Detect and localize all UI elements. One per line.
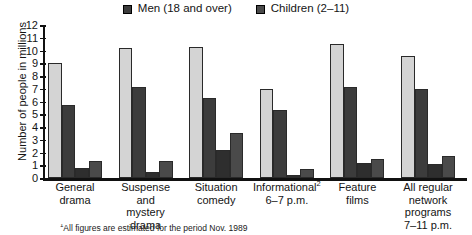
- y-tick-label: 12: [26, 20, 38, 31]
- x-axis-label-line: Situation: [181, 181, 251, 194]
- y-tick: [40, 38, 46, 40]
- bar: [442, 156, 456, 178]
- bar: [330, 44, 344, 178]
- x-axis-label-line: drama: [40, 194, 110, 207]
- y-tick: [40, 89, 46, 91]
- bar: [415, 89, 429, 178]
- bar: [189, 47, 203, 178]
- x-axis-label: Featurefilms: [322, 181, 392, 206]
- x-axis-label-line: films: [322, 194, 392, 207]
- legend-label-children: Children (2–11): [271, 3, 349, 15]
- bar: [89, 161, 103, 178]
- y-tick: [40, 153, 46, 155]
- y-tick: [40, 102, 46, 104]
- bar: [401, 56, 415, 178]
- bar: [428, 164, 442, 178]
- bar: [344, 87, 358, 178]
- bar: [159, 161, 173, 178]
- chart-footnote: 1All figures are estimated for the perio…: [60, 224, 460, 233]
- y-tick: [40, 140, 46, 142]
- bar: [146, 172, 160, 178]
- y-tick-label: 5: [32, 109, 38, 120]
- x-axis-label-line: comedy: [181, 194, 251, 207]
- x-axis-label-line: Suspense and: [111, 181, 181, 206]
- x-axis-label-line: General: [40, 181, 110, 194]
- bar: [216, 150, 230, 178]
- y-tick-label: 1: [32, 160, 38, 171]
- bar: [75, 168, 89, 178]
- bar: [357, 163, 371, 178]
- bar: [203, 98, 217, 178]
- bar: [119, 48, 133, 178]
- y-tick: [40, 25, 46, 27]
- bar: [371, 159, 385, 178]
- x-axis-label: Situationcomedy: [181, 181, 251, 206]
- y-tick-label: 2: [32, 147, 38, 158]
- y-tick-label: 9: [32, 58, 38, 69]
- chart-legend: Men (18 and over) Children (2–11): [0, 0, 472, 18]
- legend-label-men: Men (18 and over): [138, 3, 232, 15]
- plot-area: 1211109876543210: [43, 25, 467, 178]
- y-tick: [40, 178, 46, 180]
- legend-item-children: Children (2–11): [256, 3, 349, 15]
- bar: [62, 105, 76, 178]
- y-tick: [40, 63, 46, 65]
- x-axis-label-line: network: [393, 194, 463, 207]
- x-axis-label-superscript: 2: [317, 179, 321, 188]
- y-tick: [40, 165, 46, 167]
- y-tick: [40, 76, 46, 78]
- bar: [48, 63, 62, 178]
- bar: [273, 110, 287, 178]
- y-tick-label: 10: [26, 45, 38, 56]
- y-tick-label: 4: [32, 122, 38, 133]
- bar: [230, 133, 244, 178]
- y-tick-label: 0: [32, 173, 38, 184]
- bar: [132, 87, 146, 178]
- y-tick-label: 11: [27, 32, 38, 43]
- y-tick-label: 6: [32, 96, 38, 107]
- y-tick-label: 3: [32, 134, 38, 145]
- x-axis-label-line: 6–7 p.m.: [252, 194, 322, 207]
- legend-swatch-men: [123, 5, 132, 14]
- x-axis-label-line: Informational2: [252, 181, 322, 194]
- y-tick: [40, 127, 46, 129]
- y-tick-label: 8: [32, 71, 38, 82]
- x-axis-label-line: Feature: [322, 181, 392, 194]
- x-axis-label: Informational26–7 p.m.: [252, 181, 322, 206]
- x-axis-label-line: mystery: [111, 206, 181, 219]
- legend-item-men: Men (18 and over): [123, 3, 232, 15]
- y-tick: [40, 114, 46, 116]
- x-axis-label-line: programs: [393, 206, 463, 219]
- legend-swatch-children: [256, 5, 265, 14]
- x-axis-label-line: All regular: [393, 181, 463, 194]
- x-axis-label: Generaldrama: [40, 181, 110, 206]
- bar: [300, 169, 314, 178]
- y-tick: [40, 51, 46, 53]
- footnote-text: All figures are estimated for the period…: [63, 224, 247, 233]
- bar-chart: Men (18 and over) Children (2–11) Number…: [0, 0, 472, 235]
- bar: [260, 89, 274, 178]
- bar: [287, 175, 301, 178]
- y-tick-label: 7: [32, 83, 38, 94]
